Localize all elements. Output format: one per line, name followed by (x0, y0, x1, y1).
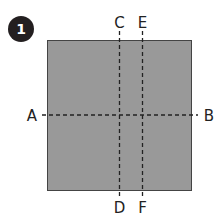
folding-diagram: 1 A B C E D F (0, 0, 219, 214)
step-number: 1 (16, 21, 26, 37)
label-a: A (27, 107, 38, 125)
label-e: E (138, 14, 147, 32)
step-badge: 1 (8, 16, 34, 42)
label-c: C (114, 14, 124, 32)
label-f: F (138, 199, 147, 214)
label-d: D (114, 199, 126, 214)
label-b: B (204, 107, 214, 125)
